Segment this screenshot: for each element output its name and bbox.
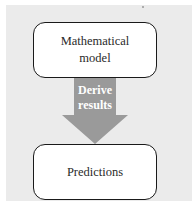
top-box-line1: Mathematical [61, 33, 130, 50]
bottom-box-label: Predictions [67, 164, 123, 181]
predictions-box: Predictions [33, 144, 157, 200]
arrow-label: Derive results [74, 83, 116, 113]
scan-speck [142, 6, 144, 8]
arrow-label-line1: Derive [74, 83, 116, 98]
mathematical-model-box: Mathematical model [33, 22, 157, 78]
top-box-line2: model [61, 50, 130, 67]
arrow-label-line2: results [74, 98, 116, 113]
